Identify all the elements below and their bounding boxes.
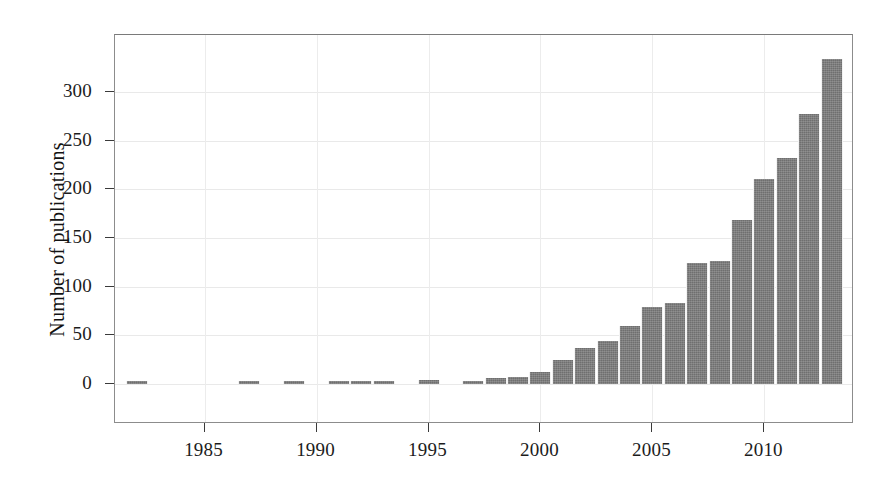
- bar: [686, 263, 708, 384]
- x-tick-mark: [428, 423, 429, 432]
- bar: [597, 341, 619, 384]
- bar: [776, 158, 798, 384]
- gridline-vertical: [429, 35, 430, 422]
- bar: [574, 348, 596, 384]
- x-tick-label: 1985: [144, 440, 264, 459]
- bar: [238, 381, 260, 384]
- x-tick-label: 1990: [256, 440, 376, 459]
- gridline-horizontal: [115, 92, 852, 93]
- x-tick-mark: [539, 423, 540, 432]
- bar: [821, 59, 843, 384]
- bar: [328, 381, 350, 384]
- gridline-vertical: [317, 35, 318, 422]
- bar: [350, 381, 372, 384]
- bar: [664, 303, 686, 384]
- bar: [507, 377, 529, 384]
- bar: [485, 378, 507, 384]
- x-tick-mark: [204, 423, 205, 432]
- gridline-horizontal: [115, 384, 852, 385]
- y-axis-title: Number of publications: [46, 85, 69, 395]
- bar: [798, 114, 820, 384]
- bar: [462, 381, 484, 384]
- plot-area: [114, 34, 853, 423]
- bar: [641, 307, 663, 384]
- x-tick-mark: [651, 423, 652, 432]
- x-tick-mark: [763, 423, 764, 432]
- bar: [731, 220, 753, 384]
- gridline-horizontal: [115, 189, 852, 190]
- bar: [619, 326, 641, 384]
- bar: [373, 381, 395, 384]
- bar: [709, 261, 731, 384]
- bar: [126, 381, 148, 384]
- gridline-vertical: [205, 35, 206, 422]
- x-tick-label: 2010: [703, 440, 823, 459]
- gridline-horizontal: [115, 141, 852, 142]
- x-tick-label: 2005: [591, 440, 711, 459]
- bar: [753, 179, 775, 384]
- bar: [283, 381, 305, 384]
- x-tick-label: 1995: [368, 440, 488, 459]
- bar: [552, 360, 574, 384]
- x-tick-mark: [316, 423, 317, 432]
- x-tick-label: 2000: [479, 440, 599, 459]
- bar: [418, 380, 440, 384]
- publications-bar-chart-figure: 050100150200250300 198519901995200020052…: [0, 0, 892, 483]
- bar: [529, 372, 551, 384]
- gridline-vertical: [540, 35, 541, 422]
